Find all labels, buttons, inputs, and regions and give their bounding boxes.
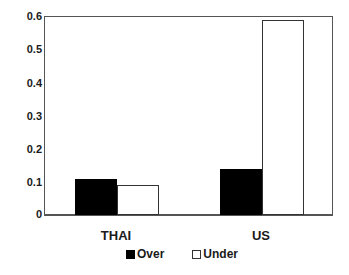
bar-us-over [220, 169, 262, 215]
y-tick-label: 0.4 [12, 77, 42, 89]
legend-item-over: Over [126, 247, 164, 261]
y-tick-label: 0.6 [12, 10, 42, 22]
legend: Over Under [126, 247, 238, 261]
bar-thai-over [75, 179, 117, 215]
y-tick-label: 0.3 [12, 110, 42, 122]
y-tick-label: 0.2 [12, 143, 42, 155]
legend-item-under: Under [192, 247, 238, 261]
empty-square-icon [192, 250, 201, 259]
x-category-label: THAI [76, 228, 156, 243]
x-category-label: US [221, 228, 301, 243]
y-tick-label: 0.5 [12, 43, 42, 55]
legend-label: Under [203, 247, 238, 261]
legend-label: Over [137, 247, 164, 261]
bar-thai-under [117, 185, 159, 215]
y-tick-label: 0.1 [12, 176, 42, 188]
y-tick-label: 0 [12, 208, 42, 220]
bar-us-under [262, 20, 304, 215]
filled-square-icon [126, 250, 135, 259]
